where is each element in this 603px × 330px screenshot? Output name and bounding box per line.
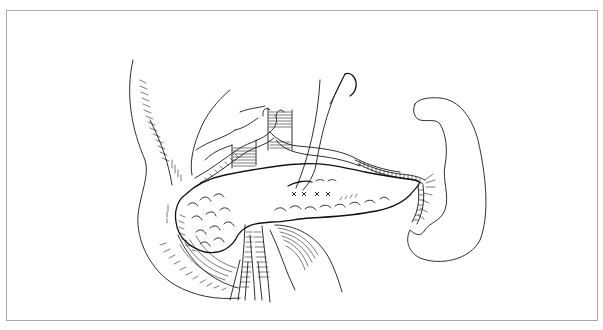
splenic-band: [355, 160, 435, 224]
spleen: [408, 98, 486, 262]
pancreas: [175, 164, 419, 253]
suture: [288, 73, 356, 190]
duodenum-hatching: [140, 80, 236, 290]
splenic-vessels: [195, 108, 400, 183]
mesenteric-vessels: [230, 225, 270, 302]
mesentery: [270, 225, 342, 292]
suture-x-marks: [292, 192, 330, 196]
anatomical-illustration: [0, 0, 603, 330]
stomach-folds: [191, 90, 265, 175]
